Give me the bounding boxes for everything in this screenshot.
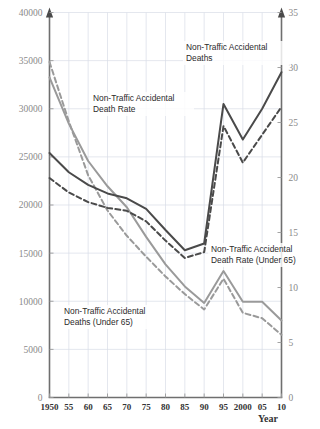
tick-label-x: 60 [84,402,94,412]
tick-label-x: 65 [103,402,113,412]
tick-label-left: 10000 [19,297,43,307]
tick-label-x: 95 [219,402,229,412]
annotation-rate-u65-line1: Non-Traffic Accidental [211,244,293,254]
annotation-deaths-u65-line1: Non-Traffic Accidental [64,306,146,316]
tick-label-x: 90 [200,402,210,412]
annotation-non-traffic-accidental-death-rate: Non-Traffic Accidental Death Rate [90,92,194,116]
tick-label-x: 2000 [234,402,253,412]
tick-label-left: 40000 [19,8,43,18]
tick-label-right: 0 [289,393,294,403]
tick-label-left: 25000 [19,152,43,162]
x-axis-title: Year [258,413,279,424]
tick-label-x: 05 [258,402,268,412]
tick-label-x: 55 [64,402,74,412]
tick-label-left: 15000 [19,249,43,259]
annotation-non-traffic-accidental-death-rate-under-65: Non-Traffic Accidental Death Rate (Under… [208,243,312,267]
annotation-deaths-line1: Non-Traffic Accidental [186,42,268,52]
tick-label-right: 35 [289,8,299,18]
annotation-rate-line2: Death Rate [93,104,136,114]
tick-label-x: 75 [142,402,152,412]
tick-label-right: 20 [289,173,299,183]
tick-label-right: 10 [289,283,299,293]
tick-label-x: 85 [180,402,190,412]
tick-label-x: 80 [161,402,171,412]
tick-label-left: 35000 [19,56,43,66]
tick-label-x: 10 [277,402,287,412]
annotation-rate-u65-line2: Death Rate (Under 65) [211,255,296,265]
annotation-non-traffic-accidental-deaths: Non-Traffic Accidental Deaths [183,41,291,65]
tick-label-right: 5 [289,338,294,348]
tick-label-right: 25 [289,118,299,128]
tick-label-left: 30000 [19,104,43,114]
chart-container: 0500010000150002000025000300003500040000… [0,0,320,429]
annotation-deaths-u65-line2: Deaths (Under 65) [64,317,133,327]
tick-label-x: 1950 [41,402,60,412]
annotation-rate-line1: Non-Traffic Accidental [93,93,175,103]
annotation-deaths-line2: Deaths [186,53,213,63]
tick-label-left: 5000 [24,345,43,355]
dual-axis-line-chart: 0500010000150002000025000300003500040000… [0,0,320,429]
tick-label-right: 15 [289,228,299,238]
annotation-non-traffic-accidental-deaths-under-65: Non-Traffic Accidental Deaths (Under 65) [61,305,165,329]
tick-label-left: 20000 [19,200,43,210]
tick-label-x: 70 [122,402,132,412]
